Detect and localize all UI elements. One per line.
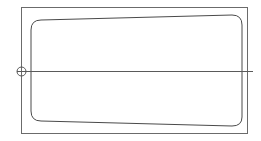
drawing-canvas: [0, 0, 261, 141]
technical-drawing-svg: [0, 0, 261, 141]
outer-boundary-rectangle: [22, 8, 248, 134]
inner-rounded-profile: [31, 15, 242, 126]
